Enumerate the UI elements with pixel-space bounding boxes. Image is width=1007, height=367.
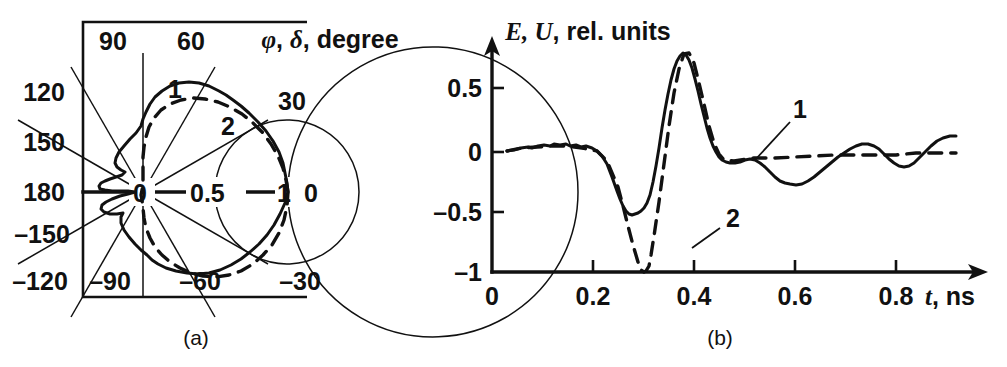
- angle-label-minus-30: –30: [279, 267, 321, 295]
- panel-b-svg: 0.5 0 –0.5 –1 0 0.2 0.4 0.6 0.8 t, ns E,…: [420, 0, 1007, 367]
- panel-b-caption: (b): [707, 326, 733, 349]
- angle-label-90: 90: [99, 27, 127, 55]
- radial-tick-05: 0.5: [190, 179, 225, 207]
- y-tick-label-0: 0: [468, 138, 482, 166]
- angle-label-120: 120: [23, 78, 65, 106]
- panel-b-waveform-plot: 0.5 0 –0.5 –1 0 0.2 0.4 0.6 0.8 t, ns E,…: [420, 0, 1007, 367]
- angle-label-minus-150: –150: [14, 220, 70, 248]
- angle-label-150: 150: [23, 128, 65, 156]
- panel-a-polar-plot: 0 0.5 1 90 60 30 0 –30 –60 –90 –120 –150…: [0, 0, 420, 367]
- y-tick-label-minus-05: –0.5: [433, 198, 482, 226]
- waveform-curve-label-1: 1: [793, 95, 807, 123]
- x-tick-label-08: 0.8: [879, 282, 914, 310]
- y-tick-label-minus-1: –1: [454, 258, 482, 286]
- panel-a-caption: (a): [183, 326, 209, 349]
- angle-label-180: 180: [23, 178, 65, 206]
- angle-label-30: 30: [278, 87, 306, 115]
- waveform-curve-1: [507, 53, 956, 215]
- y-axis-ticks: [492, 88, 504, 212]
- leader-line-curve-1: [755, 122, 790, 160]
- x-tick-label-04: 0.4: [677, 282, 712, 310]
- figure-container: 0 0.5 1 90 60 30 0 –30 –60 –90 –120 –150…: [0, 0, 1007, 367]
- polar-curve-label-2: 2: [221, 112, 235, 140]
- polar-axis-title: φ, δ, degree: [261, 25, 398, 53]
- x-axis-title: t, ns: [925, 282, 975, 310]
- angle-label-60: 60: [177, 27, 205, 55]
- x-tick-label-02: 0.2: [576, 282, 611, 310]
- angle-label-minus-120: –120: [12, 267, 68, 295]
- y-axis-title: E, U, rel. units: [504, 17, 670, 45]
- panel-a-svg: 0 0.5 1 90 60 30 0 –30 –60 –90 –120 –150…: [0, 0, 420, 367]
- x-tick-label-06: 0.6: [778, 282, 813, 310]
- angle-label-minus-60: –60: [179, 267, 221, 295]
- polar-curve-label-1: 1: [168, 75, 182, 103]
- angle-label-minus-90: –90: [89, 267, 131, 295]
- leader-line-curve-2: [692, 228, 720, 248]
- waveform-curve-label-2: 2: [726, 204, 740, 232]
- x-tick-label-0: 0: [485, 282, 499, 310]
- angle-label-0: 0: [304, 179, 318, 207]
- y-tick-label-05: 0.5: [447, 74, 482, 102]
